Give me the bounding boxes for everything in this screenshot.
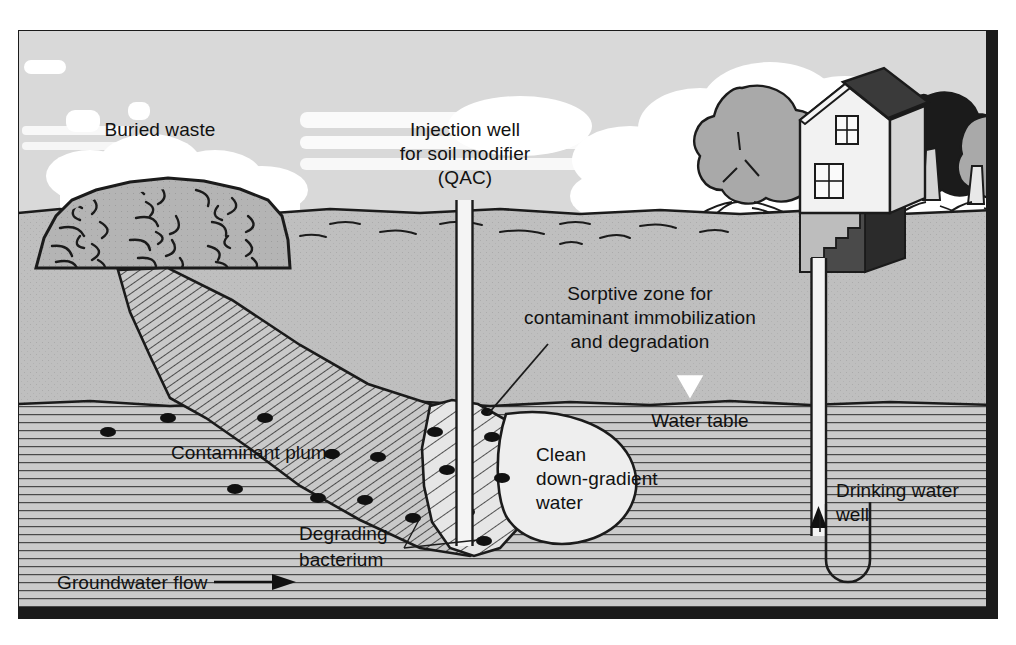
injection-well-body [456, 200, 473, 546]
label-injection-well-line2: for soil modifier [400, 143, 531, 164]
label-groundwater-flow: Groundwater flow [57, 572, 208, 593]
cloud-wisp [24, 60, 66, 74]
label-injection-well-line3: (QAC) [438, 167, 492, 188]
bacterium-dot [357, 495, 373, 505]
frame-shadow-right [986, 30, 998, 619]
diagram-canvas: Buried waste Injection well for soil mod… [0, 0, 1016, 645]
bacterium-dot [257, 413, 273, 423]
frame-shadow-bottom [18, 607, 998, 619]
label-sorptive-zone-line2: contaminant immobilization [524, 307, 756, 328]
label-sorptive-zone-line3: and degradation [571, 331, 710, 352]
label-degrading-bacterium-line2: bacterium [299, 549, 383, 570]
bacterium-dot [310, 493, 326, 503]
bacterium-dot [439, 465, 455, 475]
frame-margin-right [998, 0, 1016, 645]
drinking-well-casing [811, 258, 826, 536]
label-water-table: Water table [651, 410, 749, 431]
frame-margin-bottom [0, 619, 1016, 645]
label-buried-waste: Buried waste [104, 119, 215, 140]
label-clean-water-line2: down-gradient [536, 468, 658, 489]
label-drinking-water-well-line2: well [835, 504, 869, 525]
bacterium-dot [427, 427, 443, 437]
injection-well-pipe [456, 200, 473, 546]
label-injection-well-line1: Injection well [410, 119, 520, 140]
bacterium-dot [476, 536, 492, 546]
bacterium-dot [494, 473, 510, 483]
cloud-wisp [128, 102, 150, 120]
bacterium-dot [370, 452, 386, 462]
label-contaminant-plume: Contaminant plume [171, 442, 337, 463]
bacterium-dot [160, 413, 176, 423]
bacterium-dot [100, 427, 116, 437]
label-drinking-water-well-line1: Drinking water [836, 480, 959, 501]
label-degrading-bacterium-line1: Degrading [299, 523, 388, 544]
cloud-wisp [22, 142, 172, 150]
frame-margin-top [0, 0, 1016, 30]
house-side-wall [890, 106, 925, 213]
frame-margin-left [0, 0, 18, 645]
label-sorptive-zone-line1: Sorptive zone for [567, 283, 713, 304]
label-clean-water-line1: Clean [536, 444, 586, 465]
tree-trunk [968, 166, 984, 204]
groundwater-remediation-figure: Buried waste Injection well for soil mod… [0, 0, 1016, 645]
diagram-svg: Buried waste Injection well for soil mod… [0, 0, 1016, 645]
bacterium-dot [484, 432, 500, 442]
label-clean-water-line3: water [535, 492, 584, 513]
bacterium-dot [227, 484, 243, 494]
